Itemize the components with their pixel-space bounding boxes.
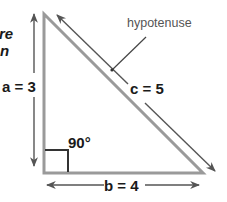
side-b-label: b = 4 bbox=[104, 178, 139, 193]
title-fragment-line-2: n bbox=[0, 43, 9, 58]
hypotenuse-leader-line bbox=[110, 37, 146, 72]
side-c-label: c = 5 bbox=[130, 81, 164, 96]
right-angle-label: 90° bbox=[68, 135, 91, 150]
side-a-label: a = 3 bbox=[2, 79, 36, 94]
triangle-svg bbox=[0, 0, 227, 202]
title-fragment-line-1: re bbox=[0, 26, 13, 41]
right-angle-marker bbox=[45, 150, 68, 172]
hypotenuse-label: hypotenuse bbox=[127, 17, 192, 30]
